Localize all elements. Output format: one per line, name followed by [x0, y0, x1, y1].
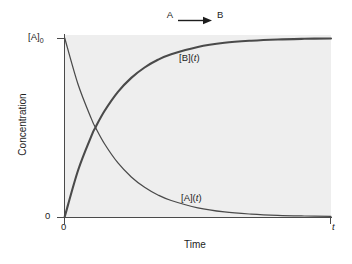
curve-a-label-suffix: )	[198, 192, 201, 203]
curve-a-path	[65, 38, 331, 216]
curve-canvas	[0, 0, 352, 264]
curve-a-label: [A](t)	[181, 193, 202, 203]
kinetics-figure: A B [A]0 0 0 t Time Concentration [B](t)…	[0, 0, 352, 264]
curve-b-label-suffix: )	[196, 52, 199, 63]
curve-b-label: [B](t)	[179, 53, 200, 63]
curve-b-path	[65, 38, 331, 216]
curve-b-label-prefix: [B](	[179, 52, 194, 63]
curve-a-label-prefix: [A](	[181, 192, 196, 203]
